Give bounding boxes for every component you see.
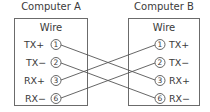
a-pin-6-number: 6 bbox=[54, 94, 59, 103]
b-pin-6-number: 6 bbox=[158, 94, 163, 103]
wiring-diagram: 1 2 3 6 1 2 3 6 bbox=[0, 0, 210, 112]
b-pin-2-number: 2 bbox=[158, 58, 163, 67]
a-pin-1-number: 1 bbox=[54, 40, 59, 49]
a-pin-3-number: 3 bbox=[54, 76, 59, 85]
b-pin-1-number: 1 bbox=[158, 40, 163, 49]
b-pin-3-number: 3 bbox=[158, 76, 163, 85]
a-pin-2-number: 2 bbox=[54, 58, 59, 67]
